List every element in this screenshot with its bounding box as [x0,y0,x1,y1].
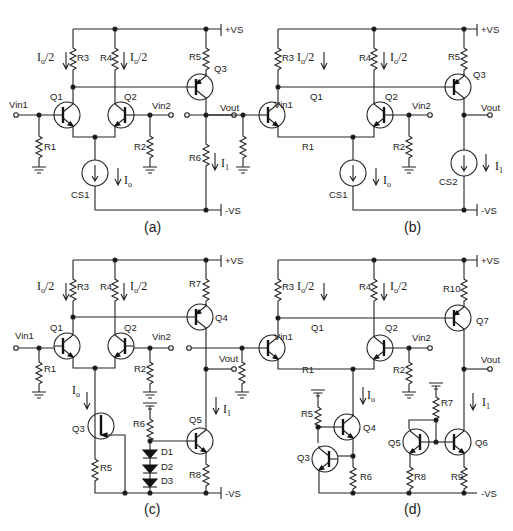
vin2-label: Vin2 [412,100,431,111]
q1-label: Q1 [311,322,324,333]
q1-label: Q1 [50,91,63,102]
q3-label: Q3 [72,423,85,434]
r2-label: R2 [393,141,405,152]
r2-label: R2 [393,364,405,375]
q5-label: Q5 [189,414,202,425]
q3-label: Q3 [214,63,227,74]
half-current-label: Io/2 [297,50,314,66]
vout-label: Vout [219,353,238,364]
r1-label: R1 [302,364,314,375]
d3-label: D3 [161,475,173,486]
pos-rail-label: +VS [481,255,499,266]
neg-rail-label: -VS [225,488,241,499]
r2-label: R2 [134,141,146,152]
half-current-label: Io/2 [130,279,147,295]
cs1-label: CS1 [329,189,347,200]
half-current-label: Io/2 [390,50,407,66]
neg-rail-label: -VS [481,205,497,216]
pos-rail-label: +VS [225,255,243,266]
vout-label: Vout [481,354,500,365]
q6-label: Q6 [475,437,488,448]
r5-label: R5 [100,462,112,473]
r7-label: R7 [189,278,201,289]
q1-label: Q1 [50,322,63,333]
r4-label: R4 [100,281,112,292]
out-current-label: I1 [221,156,229,172]
q2-label: Q2 [124,322,137,333]
panel-b-labels: +VS -VS R3 R4 Io/2 Io/2 Q1 Q2 Vin1 Vin2 … [274,24,503,235]
r4-label: R4 [359,281,371,292]
q7-label: Q7 [476,315,489,326]
vin2-label: Vin2 [152,331,171,342]
d1-label: D1 [161,446,173,457]
d2-label: D2 [161,461,173,472]
q4-label: Q4 [215,312,228,323]
vin2-label: Vin2 [412,332,431,343]
r3-label: R3 [77,52,89,63]
r3-label: R3 [282,281,294,292]
r5-label: R5 [448,51,460,62]
r3-label: R3 [77,281,89,292]
r9-label: R9 [451,471,463,482]
r8-label: R8 [189,469,201,480]
r3-label: R3 [282,52,294,63]
tail-current-label: Io [367,388,375,404]
pos-rail-label: +VS [225,24,243,35]
r2-label: R2 [134,363,146,374]
tail-current-label: Io [72,383,80,399]
vin1-label: Vin1 [15,330,34,341]
r6-label: R6 [360,471,372,482]
r1-label: R1 [44,363,56,374]
vin2-label: Vin2 [152,100,171,111]
cs2-label: CS2 [439,176,457,187]
schematic-figure: +VS -VS R3 R4 Io/2 Io/2 Q1 Q2 Vin1 Vin2 … [0,0,513,531]
tail-current-label: Io [383,173,391,189]
r5-label: R5 [301,408,313,419]
r6-label: R6 [133,418,145,429]
half-current-label: Io/2 [390,279,407,295]
q2-label: Q2 [385,91,398,102]
vout-label: Vout [481,102,500,113]
q4-label: Q4 [363,422,376,433]
r5-label: R5 [189,51,201,62]
caption-d: (d) [404,501,421,517]
q3-label: Q3 [297,452,310,463]
half-current-label: Io/2 [37,279,54,295]
caption-c: (c) [144,501,160,517]
r4-label: R4 [359,52,371,63]
vin1-label: Vin1 [274,99,293,110]
q2-label: Q2 [124,91,137,102]
r4-label: R4 [100,52,112,63]
r6-label: R6 [189,152,201,163]
caption-b: (b) [404,219,421,235]
out-current-label: I1 [223,402,231,418]
vin1-label: Vin1 [274,331,293,342]
q2-label: Q2 [385,322,398,333]
pos-rail-label: +VS [481,24,499,35]
tail-current-label: Io [124,173,132,189]
r8-label: R8 [414,471,426,482]
half-current-label: Io/2 [130,50,147,66]
r1-label: R1 [44,141,56,152]
r1-label: R1 [302,141,314,152]
q1-label: Q1 [310,91,323,102]
neg-rail-label: -VS [225,205,241,216]
vout-label: Vout [220,102,239,113]
neg-rail-label: -VS [481,488,497,499]
out-current-label: I1 [482,395,490,411]
out-current-label: I1 [495,159,503,175]
q5-label: Q5 [388,437,401,448]
caption-a: (a) [144,219,161,235]
cs1-label: CS1 [71,189,89,200]
vin1-label: Vin1 [9,99,28,110]
half-current-label: Io/2 [37,50,54,66]
r7-label: R7 [441,397,453,408]
r10-label: R10 [443,283,460,294]
q3-label: Q3 [473,69,486,80]
panel-b [185,24,493,216]
half-current-label: Io/2 [297,279,314,295]
